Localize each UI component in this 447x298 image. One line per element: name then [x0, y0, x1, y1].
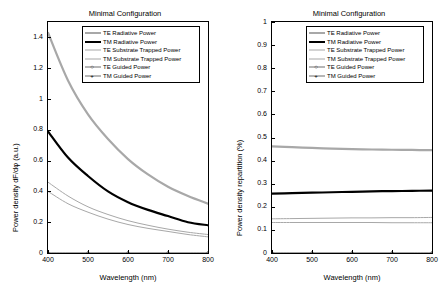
x-tick-mark	[168, 250, 169, 253]
y-tick-mark	[48, 37, 51, 38]
x-tick-mark	[312, 250, 313, 253]
legend-label: TE Guided Power	[103, 63, 150, 71]
x-tick-label: 600	[338, 256, 366, 263]
y-tick-mark	[272, 91, 275, 92]
legend-swatch	[85, 46, 101, 54]
y-tick-mark	[48, 253, 51, 254]
legend-item: TE Radiative Power	[85, 29, 196, 38]
x-tick-label: 400	[34, 256, 62, 263]
y-tick-label: 0	[241, 249, 267, 256]
legend-item: +TM Guided Power	[309, 72, 420, 81]
y-tick-label: 0.6	[241, 110, 267, 117]
legend-item: TE Substrate Trapped Power	[85, 46, 196, 55]
y-tick-mark	[48, 68, 51, 69]
y-tick-mark	[272, 161, 275, 162]
x-axis-label-right: Wavelength (nm)	[302, 273, 402, 282]
legend-label: TE Radiative Power	[103, 29, 156, 37]
legend-label: TM Substrate Trapped Power	[327, 55, 405, 63]
legend-item: ○TE Guided Power	[309, 63, 420, 72]
y-tick-label: 0.9	[241, 41, 267, 48]
legend-marker-icon: ○	[90, 64, 94, 70]
x-tick-mark	[272, 250, 273, 253]
y-tick-mark	[272, 68, 275, 69]
legend-label: TE Guided Power	[327, 63, 374, 71]
legend-label: TE Radiative Power	[327, 29, 380, 37]
legend-swatch	[85, 38, 101, 46]
legend-item: TM Substrate Trapped Power	[309, 55, 420, 64]
legend-label: TE Substrate Trapped Power	[103, 46, 180, 54]
legend-swatch: +	[309, 72, 325, 80]
y-tick-label: 0.2	[241, 202, 267, 209]
y-tick-label: 0.5	[241, 133, 267, 140]
legend-label: TM Radiative Power	[327, 38, 381, 46]
y-tick-mark	[272, 184, 275, 185]
legend-swatch	[309, 55, 325, 63]
legend-marker-icon: ○	[314, 64, 318, 70]
series-line	[272, 191, 432, 194]
legend-label: TE Substrate Trapped Power	[327, 46, 404, 54]
x-tick-label: 500	[298, 256, 326, 263]
chart-panel-left: Minimal Configuration Power density dF/d…	[0, 0, 223, 298]
legend-item: TM Radiative Power	[85, 38, 196, 47]
legend-swatch	[85, 55, 101, 63]
x-tick-mark	[48, 250, 49, 253]
legend-left: TE Radiative PowerTM Radiative PowerTE S…	[82, 26, 200, 83]
x-tick-label: 800	[194, 256, 222, 263]
y-tick-mark	[272, 138, 275, 139]
y-tick-label: 1	[241, 18, 267, 25]
chart-title-left: Minimal Configuration	[36, 9, 214, 18]
y-tick-mark	[272, 230, 275, 231]
y-tick-mark	[272, 114, 275, 115]
y-tick-mark	[48, 99, 51, 100]
y-tick-label: 0.4	[241, 156, 267, 163]
legend-swatch	[309, 38, 325, 46]
legend-right: TE Radiative PowerTM Radiative PowerTE S…	[306, 26, 424, 83]
legend-swatch	[309, 29, 325, 37]
series-line	[48, 131, 208, 225]
x-tick-mark	[432, 250, 433, 253]
y-tick-mark	[48, 130, 51, 131]
legend-swatch: ○	[85, 63, 101, 71]
y-tick-mark	[272, 22, 275, 23]
legend-label: TM Radiative Power	[103, 38, 157, 46]
series-line	[272, 217, 432, 218]
legend-label: TM Guided Power	[103, 72, 151, 80]
y-tick-label: 0.3	[241, 179, 267, 186]
legend-marker-icon: +	[90, 73, 94, 79]
legend-swatch	[309, 46, 325, 54]
legend-item: +TM Guided Power	[85, 72, 196, 81]
y-tick-label: 1	[17, 95, 43, 102]
x-axis-label-left: Wavelength (nm)	[78, 273, 178, 282]
x-tick-mark	[128, 250, 129, 253]
y-tick-label: 0.8	[241, 64, 267, 71]
y-tick-label: 0.2	[17, 218, 43, 225]
x-tick-mark	[352, 250, 353, 253]
y-axis-label-right: Power density repartition (%)	[235, 140, 244, 236]
y-tick-label: 0.6	[17, 156, 43, 163]
y-tick-mark	[48, 161, 51, 162]
y-tick-mark	[272, 253, 275, 254]
figure-root: Minimal Configuration Power density dF/d…	[0, 0, 447, 298]
y-tick-label: 1.2	[17, 64, 43, 71]
series-line	[272, 146, 432, 150]
x-tick-label: 600	[114, 256, 142, 263]
legend-swatch: ○	[309, 63, 325, 71]
y-tick-mark	[48, 222, 51, 223]
y-tick-label: 0.1	[241, 225, 267, 232]
x-tick-label: 400	[258, 256, 286, 263]
x-tick-mark	[208, 250, 209, 253]
y-tick-label: 0	[17, 249, 43, 256]
y-tick-mark	[48, 191, 51, 192]
y-tick-mark	[272, 45, 275, 46]
legend-item: TE Radiative Power	[309, 29, 420, 38]
legend-item: TM Radiative Power	[309, 38, 420, 47]
x-tick-label: 800	[418, 256, 446, 263]
y-tick-mark	[272, 207, 275, 208]
legend-label: TM Substrate Trapped Power	[103, 55, 181, 63]
y-tick-label: 0.4	[17, 187, 43, 194]
legend-item: TE Substrate Trapped Power	[309, 46, 420, 55]
legend-item: TM Substrate Trapped Power	[85, 55, 196, 64]
x-tick-label: 500	[74, 256, 102, 263]
y-tick-label: 1.4	[17, 33, 43, 40]
legend-item: ○TE Guided Power	[85, 63, 196, 72]
